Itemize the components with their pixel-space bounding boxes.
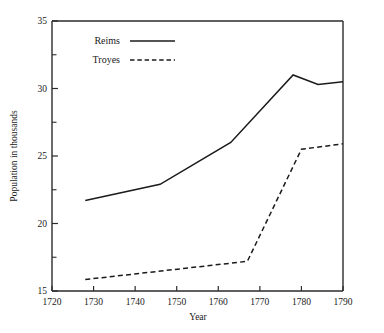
x-tick-label: 1720 [43, 297, 62, 307]
x-tick-label: 1740 [126, 297, 145, 307]
x-tick-label: 1730 [84, 297, 103, 307]
x-tick-label: 1780 [292, 297, 311, 307]
y-tick-label: 15 [38, 286, 48, 296]
y-tick-label: 25 [38, 151, 48, 161]
legend-label-troyes: Troyes [93, 54, 121, 65]
legend-label-reims: Reims [94, 35, 120, 46]
x-tick-marks [52, 286, 343, 291]
x-axis-title: Year [189, 312, 207, 322]
y-tick-label: 30 [38, 84, 48, 94]
x-tick-label: 1750 [167, 297, 186, 307]
x-tick-labels: 17201730174017501760177017801790 [43, 297, 353, 307]
legend: Reims Troyes [93, 35, 175, 65]
y-tick-labels: 1520253035 [38, 16, 48, 296]
x-tick-label: 1770 [250, 297, 269, 307]
y-tick-label: 20 [38, 219, 48, 229]
y-tick-marks [52, 21, 58, 291]
series-line-troyes [85, 144, 343, 280]
line-chart: 1520253035 17201730174017501760177017801… [0, 0, 384, 333]
y-tick-label: 35 [38, 16, 48, 26]
chart-canvas: 1520253035 17201730174017501760177017801… [0, 0, 384, 333]
x-tick-label: 1760 [209, 297, 228, 307]
y-axis-title: Population in thousands [9, 110, 19, 202]
x-tick-label: 1790 [334, 297, 353, 307]
series-line-reims [85, 75, 343, 201]
